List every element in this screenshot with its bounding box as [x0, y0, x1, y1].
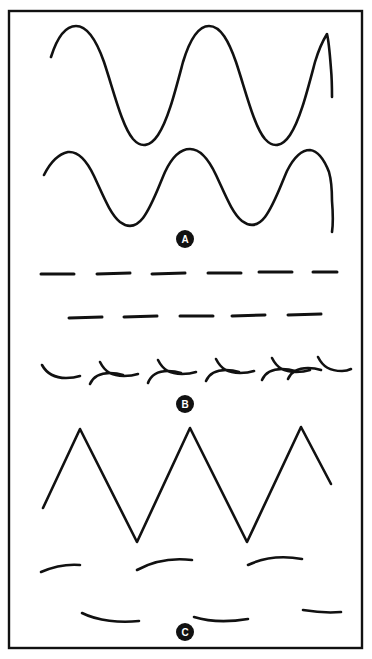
badge-letter-a: A	[181, 234, 188, 245]
outer-frame	[9, 11, 362, 648]
dash-row-lower-segment-4	[288, 314, 321, 315]
dash-row-lower-segment-0	[69, 317, 102, 318]
dash-row-lower-segment-1	[124, 316, 157, 317]
dash-row-lower-segment-3	[232, 315, 265, 316]
badge-letter-b: B	[181, 399, 188, 410]
figure-root: ABC	[0, 0, 372, 659]
waveform-figure-svg: ABC	[0, 0, 372, 659]
dash-row-upper-segment-1	[97, 273, 130, 274]
dash-row-upper-segment-2	[152, 273, 185, 274]
section-badge-a: A	[176, 230, 194, 248]
badge-letter-c: C	[181, 627, 188, 638]
section-badge-b: B	[176, 395, 194, 413]
section-badge-c: C	[176, 623, 194, 641]
